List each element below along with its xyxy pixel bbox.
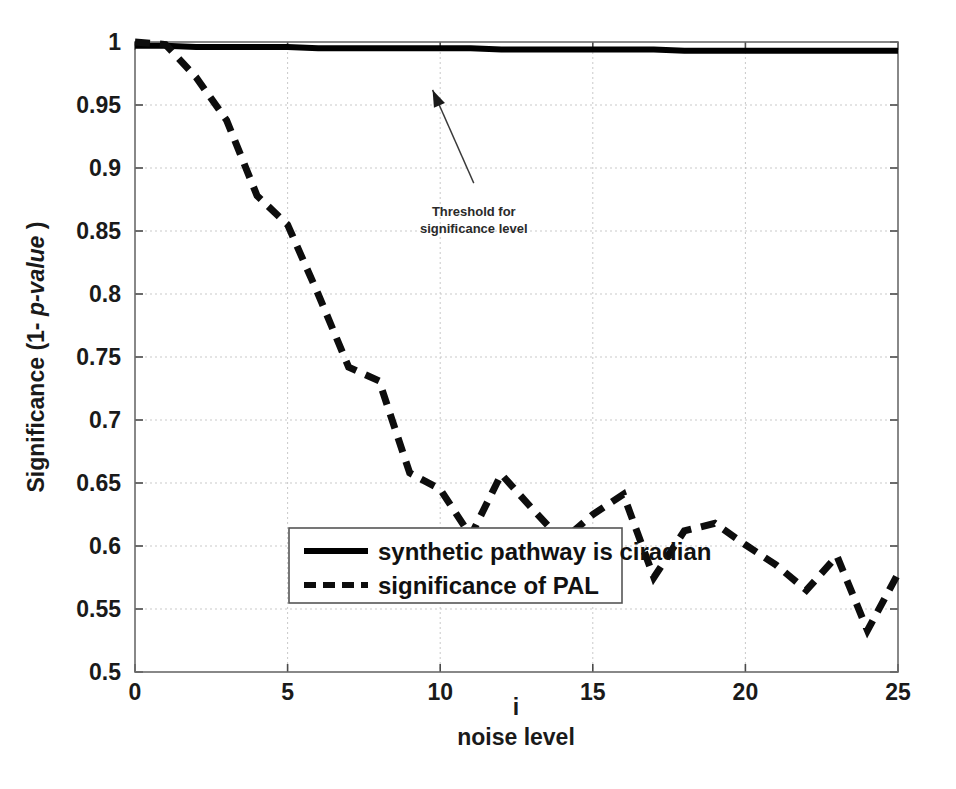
y-tick-label: 0.95 — [76, 92, 121, 118]
y-tick-label: 0.55 — [76, 596, 121, 622]
y-axis-title: Significance (1- p-value ) — [23, 222, 49, 493]
x-axis-title-line1: i — [513, 694, 519, 720]
legend-label-0: synthetic pathway is ciradian — [378, 538, 711, 565]
x-tick-label: 25 — [885, 679, 911, 705]
x-tick-label: 15 — [580, 679, 606, 705]
y-tick-label: 0.65 — [76, 470, 121, 496]
significance-vs-noise-level-chart: 0.50.550.60.650.70.750.80.850.90.951 051… — [0, 0, 956, 789]
figure-background — [0, 0, 956, 789]
figure-container: 0.50.550.60.650.70.750.80.850.90.951 051… — [0, 0, 956, 789]
x-axis-title-line2: noise level — [457, 724, 575, 750]
y-tick-label: 0.75 — [76, 344, 121, 370]
y-axis-title-prefix: Significance (1- — [23, 316, 49, 492]
svg-text:Significance (1- p-value ): Significance (1- p-value ) — [23, 222, 49, 493]
x-tick-label: 20 — [733, 679, 759, 705]
y-tick-label: 0.5 — [89, 659, 121, 685]
y-axis-title-suffix: ) — [23, 222, 49, 236]
x-tick-label: 10 — [427, 679, 453, 705]
annotation-text-line2: significance level — [420, 221, 528, 236]
legend-label-1: significance of PAL — [378, 572, 599, 599]
y-tick-label: 0.9 — [89, 155, 121, 181]
y-tick-label: 0.85 — [76, 218, 121, 244]
y-tick-label: 0.8 — [89, 281, 121, 307]
y-axis-title-italic: p-value — [23, 235, 49, 317]
annotation-text-line1: Threshold for — [432, 204, 516, 219]
x-tick-label: 0 — [129, 679, 142, 705]
y-tick-label: 0.6 — [89, 533, 121, 559]
y-tick-label: 1 — [108, 29, 121, 55]
x-tick-label: 5 — [281, 679, 294, 705]
y-tick-label: 0.7 — [89, 407, 121, 433]
